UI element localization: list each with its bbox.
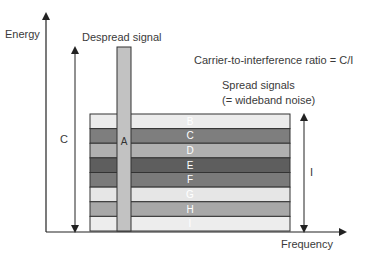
spread-band-label: E bbox=[183, 161, 197, 171]
frequency-axis-label: Frequency bbox=[281, 239, 333, 250]
interference-label: I bbox=[310, 167, 313, 178]
spread-band-label: I bbox=[183, 219, 197, 229]
despread-band-label: A bbox=[117, 137, 131, 147]
spread-signals-title: Spread signals bbox=[222, 80, 295, 91]
spread-band-label: H bbox=[183, 205, 197, 215]
cdma-spread-spectrum-diagram: Energy Despread signal Carrier-to-interf… bbox=[0, 0, 388, 262]
carrier-label: C bbox=[60, 134, 68, 145]
spread-band-label: C bbox=[183, 131, 197, 141]
spread-band-label: G bbox=[183, 190, 197, 200]
ratio-text: Carrier-to-interference ratio = C/I bbox=[194, 55, 353, 66]
spread-signals-subtitle: (= wideband noise) bbox=[222, 95, 315, 106]
energy-axis-label: Energy bbox=[5, 29, 40, 40]
spread-band-label: B bbox=[183, 117, 197, 127]
spread-band-label: D bbox=[183, 146, 197, 156]
despread-signal-title: Despread signal bbox=[82, 32, 162, 43]
spread-band-label: F bbox=[183, 175, 197, 185]
